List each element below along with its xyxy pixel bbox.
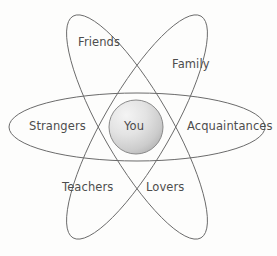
relationship-diagram: Friends Family Strangers Acquaintances T… bbox=[0, 0, 277, 256]
label-friends: Friends bbox=[78, 37, 120, 49]
label-teachers: Teachers bbox=[62, 182, 113, 194]
label-lovers: Lovers bbox=[146, 182, 184, 194]
label-you: You bbox=[124, 121, 144, 133]
label-family: Family bbox=[172, 59, 210, 71]
label-acquaintances: Acquaintances bbox=[187, 121, 273, 133]
label-strangers: Strangers bbox=[29, 121, 86, 133]
